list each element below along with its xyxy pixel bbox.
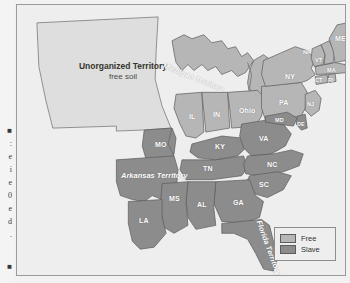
region-illinois (174, 92, 204, 138)
gutter-fragment: 0 (0, 191, 13, 200)
gutter-fragment: e (0, 178, 13, 187)
region-new-york (262, 47, 316, 87)
legend-item-free: Free (280, 234, 331, 243)
gutter-fragment: e (0, 204, 13, 213)
region-indiana (202, 92, 230, 132)
left-text-gutter: ■ : e i e 0 e d . ■ (0, 0, 13, 283)
legend-item-slave: Slave (280, 245, 331, 254)
map-page: ■ : e i e 0 e d . ■ .free { fill:#b6b6b6… (0, 0, 350, 283)
legend-label-free: Free (301, 234, 316, 243)
gutter-fragment: ■ (0, 262, 13, 271)
region-michigan-territory (172, 35, 254, 77)
map-legend: Free Slave (274, 227, 336, 261)
region-new-jersey (305, 90, 321, 116)
region-virginia (240, 120, 292, 156)
gutter-fragment: : (0, 139, 13, 148)
region-florida-territory (222, 219, 278, 271)
region-louisiana (128, 200, 166, 250)
gutter-fragment: e (0, 152, 13, 161)
region-alabama (186, 182, 216, 230)
legend-swatch-slave (280, 245, 296, 254)
region-unorganized-territory (37, 17, 171, 131)
gutter-fragment: ■ (0, 126, 13, 135)
legend-swatch-free (280, 234, 296, 243)
region-connecticut (315, 74, 328, 84)
legend-label-slave: Slave (301, 245, 320, 254)
gutter-fragment: d (0, 217, 13, 226)
region-rhode-island (328, 73, 336, 82)
map-frame: .free { fill:#b6b6b6; stroke:#5a5a5a; st… (16, 4, 346, 276)
gutter-fragment: i (0, 165, 13, 174)
gutter-fragment: . (0, 230, 13, 239)
region-delaware (296, 114, 307, 130)
